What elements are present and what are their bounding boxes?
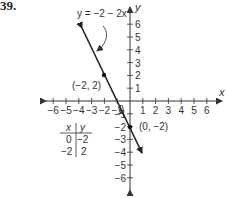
y-tick-label: −5 [115,160,127,171]
point-0-neg2 [128,125,132,129]
x-tick-label: 5 [191,105,197,116]
y-tick-label: −6 [115,173,127,184]
table-cell-r1-y: 2 [81,146,87,157]
y-tick-label: −4 [115,147,127,158]
table-header-x: x [65,122,72,133]
point-neg2-2 [102,73,106,77]
x-axis-label: x [218,86,225,98]
values-table: x y 0 −2 −2 2 [60,122,92,157]
x-tick-label: −4 [73,105,85,116]
y-tick-label: −2 [115,122,127,133]
y-tick-label: 6 [135,19,141,30]
x-tick-label: −6 [47,105,59,116]
equation-label: y = −2 − 2x [77,8,127,19]
table-cell-r0-y: −2 [77,134,89,145]
y-tick-label: 4 [135,45,141,56]
y-tick-label: 3 [135,58,141,69]
y-tick-label: 1 [135,83,141,94]
coordinate-plane: −6−5−4−3−2−10123456 −6−5−4−3−2−1123456 x… [0,0,229,198]
table-header-y: y [79,122,86,133]
x-tick-label: 2 [153,105,159,116]
x-tick-label: −5 [60,105,72,116]
y-axis-label: y [134,1,142,13]
x-tick-label: −2 [99,105,111,116]
y-tick-label: 2 [135,70,141,81]
x-tick-label: 1 [140,105,146,116]
x-tick-label: 6 [204,105,210,116]
y-tick-label: −3 [115,134,127,145]
table-cell-r0-x: 0 [66,134,72,145]
point-label-0-neg2: (0, −2) [139,121,168,132]
point-label-neg2-2: (−2, 2) [72,80,101,91]
equation-pointer-arrow [97,26,107,51]
x-tick-label: −3 [86,105,98,116]
table-cell-r1-x: −2 [61,146,73,157]
x-tick-label: 4 [178,105,184,116]
x-tick-label: 3 [166,105,172,116]
y-tick-label: 5 [135,32,141,43]
